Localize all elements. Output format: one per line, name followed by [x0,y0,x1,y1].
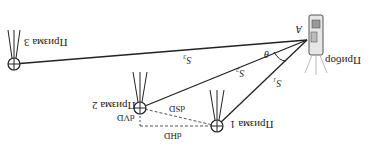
point-a-label: A [296,24,302,34]
distance-s2-label: S₂ [236,68,244,78]
angle-theta-label: θ [264,49,269,59]
prism-measurement-diagram: Прибор A Призма 3 Призма 2 Призма 1 S₃ S… [0,0,369,146]
prism-3-label: Призма 3 [24,37,68,48]
prism-3-icon [8,30,20,70]
prism-2-label: Призма 2 [92,100,136,111]
instrument-label: Прибор [325,55,361,66]
prism-1-label: Призма 1 [230,119,274,130]
instrument-icon [305,15,327,75]
prism-1-icon [210,90,224,132]
distance-s1-label: S₁ [273,78,281,88]
distance-s3-label: S₃ [183,55,191,65]
dhd-label: dHD [164,131,182,140]
dvd-label: dVD [117,113,135,122]
dsd-label: dSD [169,104,185,113]
diagram-lines [0,0,369,146]
